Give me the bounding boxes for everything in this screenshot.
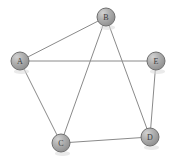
graph-svg: ABCDE <box>0 0 174 162</box>
edge-layer <box>20 17 156 143</box>
graph-edge-c-d <box>61 137 150 143</box>
node-circle-a[interactable] <box>11 52 29 70</box>
node-layer: ABCDE <box>11 8 165 152</box>
graph-node-d[interactable]: D <box>141 128 159 146</box>
graph-edge-b-c <box>61 17 106 143</box>
graph-edge-b-d <box>106 17 150 137</box>
graph-node-c[interactable]: C <box>52 134 70 152</box>
graph-node-a[interactable]: A <box>11 52 29 70</box>
graph-node-b[interactable]: B <box>97 8 115 26</box>
node-circle-d[interactable] <box>141 128 159 146</box>
graph-diagram-canvas: ABCDE <box>0 0 174 162</box>
node-circle-b[interactable] <box>97 8 115 26</box>
node-circle-e[interactable] <box>147 52 165 70</box>
graph-node-e[interactable]: E <box>147 52 165 70</box>
node-circle-c[interactable] <box>52 134 70 152</box>
